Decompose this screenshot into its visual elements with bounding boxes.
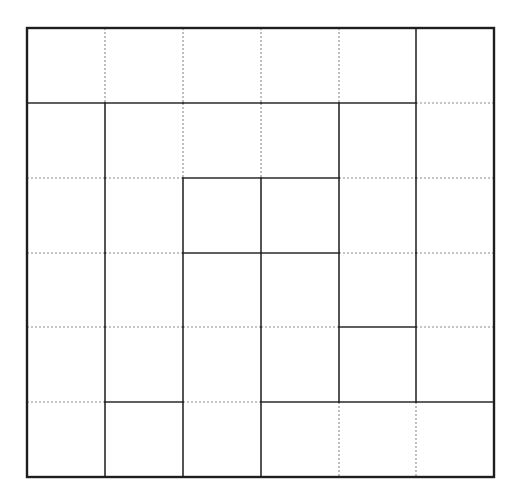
grid-drawing: [0, 0, 525, 502]
puzzle-grid: [0, 0, 525, 502]
grid-edges: [27, 28, 494, 477]
